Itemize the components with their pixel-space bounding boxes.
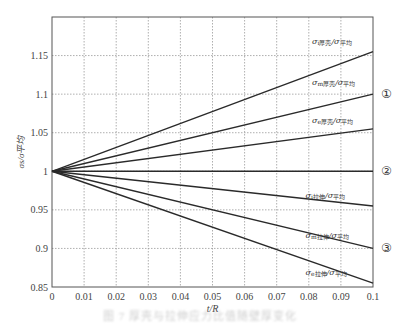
y-tick-label: 0.85 <box>31 282 49 293</box>
circled-number-annotation: ① <box>381 87 392 101</box>
x-tick-label: 0.04 <box>172 291 190 302</box>
y-axis-label: σs/σ平均 <box>16 135 26 169</box>
x-tick-label: 0.07 <box>268 291 286 302</box>
circled-number-annotation: ② <box>381 164 392 178</box>
series-label: σi厚壳/σ平均 <box>312 37 352 47</box>
x-tick-label: 0.09 <box>332 291 350 302</box>
x-tick-label: 0.01 <box>75 291 93 302</box>
x-tick-label: 0.05 <box>204 291 222 302</box>
circled-number-annotation: ③ <box>381 241 392 255</box>
line-chart: 00.010.020.030.040.050.060.070.080.090.1… <box>0 0 400 327</box>
x-tick-label: 0.06 <box>236 291 254 302</box>
series-label: σi拉伸/σ平均 <box>306 191 346 201</box>
x-tick-label: 0.02 <box>107 291 125 302</box>
series-label: σm拉伸/σ平均 <box>306 231 349 241</box>
y-tick-label: 0.9 <box>36 243 49 254</box>
series-label: σe厚壳/σ平均 <box>312 116 353 126</box>
y-tick-label: 0.95 <box>31 204 49 215</box>
figure-caption: 图 7 厚壳与拉伸应力比值随壁厚变化 <box>0 307 400 323</box>
x-tick-label: 0.08 <box>300 291 318 302</box>
y-tick-label: 1.05 <box>31 127 49 138</box>
x-tick-label: 0 <box>50 291 55 302</box>
y-tick-label: 1.1 <box>36 89 49 100</box>
series-label: σm厚壳/σ平均 <box>312 78 355 88</box>
y-tick-label: 1 <box>43 166 48 177</box>
y-tick-label: 1.15 <box>31 50 49 61</box>
series-label: σe拉伸/σ平均 <box>306 268 347 278</box>
x-tick-label: 0.1 <box>367 291 380 302</box>
x-tick-label: 0.03 <box>140 291 158 302</box>
